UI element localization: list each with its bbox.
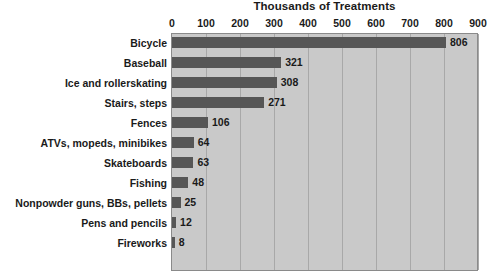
bar-value-label-10: 8 <box>179 237 185 248</box>
bar-7 <box>172 177 188 188</box>
category-label-4: Fences <box>0 117 167 129</box>
category-label-6: Skateboards <box>0 157 167 169</box>
category-label-10: Fireworks <box>0 237 167 249</box>
bar-value-label-2: 308 <box>281 77 299 88</box>
bar-3 <box>172 97 264 108</box>
bar-value-label-8: 25 <box>185 197 197 208</box>
category-label-5: ATVs, mopeds, minibikes <box>0 137 167 149</box>
bar-9 <box>172 217 176 228</box>
gridline-900 <box>478 34 479 270</box>
category-label-3: Stairs, steps <box>0 97 167 109</box>
bar-value-label-0: 806 <box>450 37 468 48</box>
bar-value-label-6: 63 <box>197 157 209 168</box>
bar-value-label-4: 106 <box>212 117 230 128</box>
bar-value-label-3: 271 <box>268 97 286 108</box>
category-label-0: Bicycle <box>0 37 167 49</box>
category-label-2: Ice and rollerskating <box>0 77 167 89</box>
category-label-1: Baseball <box>0 57 167 69</box>
bar-0 <box>172 37 446 48</box>
x-axis-tick-labels: 0100200300400500600700800900 <box>0 17 485 31</box>
bar-2 <box>172 77 277 88</box>
bar-4 <box>172 117 208 128</box>
bar-1 <box>172 57 281 68</box>
category-label-9: Pens and pencils <box>0 217 167 229</box>
bar-value-label-5: 64 <box>198 137 210 148</box>
x-tick-label-900: 900 <box>458 17 491 29</box>
chart-title: Thousands of Treatments <box>171 0 478 12</box>
bars-layer: 80632130827110664634825128 <box>171 33 478 271</box>
bar-value-label-7: 48 <box>192 177 204 188</box>
bar-value-label-9: 12 <box>180 217 192 228</box>
bar-5 <box>172 137 194 148</box>
category-label-7: Fishing <box>0 177 167 189</box>
bar-value-label-1: 321 <box>285 57 303 68</box>
category-label-8: Nonpowder guns, BBs, pellets <box>0 197 167 209</box>
bar-8 <box>172 197 181 208</box>
category-axis-labels: BicycleBaseballIce and rollerskatingStai… <box>0 33 167 271</box>
bar-10 <box>172 237 175 248</box>
bar-6 <box>172 157 193 168</box>
